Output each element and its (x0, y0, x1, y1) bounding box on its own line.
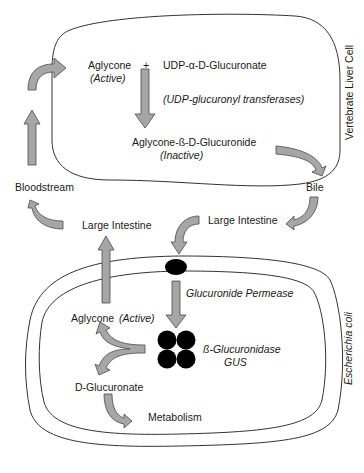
gus-tetramer (158, 331, 196, 369)
d-glucuronate-label: D-Glucuronate (75, 381, 143, 393)
plus-sign: + (143, 59, 149, 71)
liver-cell-label: Vertebrate Liver Cell (343, 45, 355, 140)
glucuronide-product-label: Aglycone-ß-D-Glucuronide (132, 136, 256, 148)
bloodstream-up-arrow (24, 110, 40, 165)
glucuronide-permease-protein (165, 259, 187, 275)
ecoli-aglycone-label: Aglycone (71, 312, 114, 324)
aglycone-export-arrow (98, 236, 114, 303)
bloodstream-label: Bloodstream (15, 181, 74, 193)
udp-glucuronate-label: UDP-α-D-Glucuronate (163, 59, 267, 71)
intestine-to-permease-arrow (171, 216, 199, 254)
large-intestine-left-label: Large Intestine (82, 219, 151, 231)
ecoli-aglycone-state: (Active) (119, 312, 155, 324)
glucuronide-product-state: (Inactive) (160, 149, 203, 161)
gus-split-arrow (95, 322, 145, 375)
large-intestine-right-label: Large Intestine (208, 214, 277, 226)
bile-label: Bile (306, 181, 324, 193)
gus-abbr-label: GUS (224, 356, 247, 368)
curved-arrow-into-liver (28, 58, 66, 90)
gus-name-label: ß-Glucuronidase (203, 343, 281, 355)
liver-to-bile-arrow (276, 146, 326, 176)
permease-to-gus-arrow (166, 281, 186, 328)
permease-label: Glucuronide Permease (186, 287, 293, 299)
transferase-label: (UDP-glucuronyl transferases) (163, 93, 304, 105)
ecoli-label: Escherichia coli (342, 312, 354, 385)
glucuronate-to-metabolism-arrow (104, 394, 132, 428)
liver-aglycone-state: (Active) (90, 72, 126, 84)
bile-to-intestine-arrow (286, 197, 318, 230)
intestine-to-bloodstream-arrow (28, 200, 63, 229)
metabolism-label: Metabolism (148, 411, 202, 423)
liver-aglycone-label: Aglycone (88, 59, 131, 71)
transferase-arrow (135, 69, 155, 128)
